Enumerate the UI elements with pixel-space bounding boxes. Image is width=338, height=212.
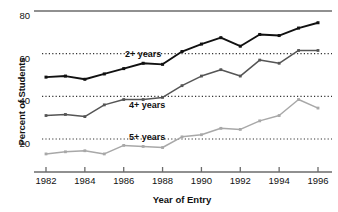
data-point-marker (278, 62, 281, 65)
data-point-marker (83, 115, 86, 118)
plot-area: 80604020 1982198419861988199019921994199… (0, 0, 338, 212)
x-tick-label-1988: 1988 (152, 175, 173, 186)
series-label-2-years: 2+ years (125, 49, 161, 59)
x-tick-label-1986: 1986 (113, 175, 134, 186)
y-tick-label-40: 40 (19, 95, 30, 106)
series-label-5-years: 5+ years (129, 132, 165, 142)
series-line (46, 50, 318, 116)
data-point-marker (258, 33, 261, 36)
data-point-marker (297, 27, 300, 30)
data-point-marker (297, 98, 300, 101)
line-chart-svg: 80604020 1982198419861988199019921994199… (0, 0, 338, 212)
data-point-marker (83, 78, 86, 81)
data-point-marker (181, 135, 184, 138)
data-point-marker (142, 145, 145, 148)
data-point-marker (181, 50, 184, 53)
x-tick-label-1992: 1992 (230, 175, 251, 186)
y-tick-labels-group: 80604020 (19, 10, 30, 149)
data-point-marker (317, 49, 320, 52)
data-point-marker (103, 103, 106, 106)
data-point-marker (239, 75, 242, 78)
data-point-marker (258, 119, 261, 122)
x-tick-label-1984: 1984 (74, 175, 95, 186)
data-point-marker (161, 146, 164, 149)
data-point-marker (64, 113, 67, 116)
data-point-marker (219, 36, 222, 39)
data-point-marker (64, 75, 67, 78)
data-point-marker (219, 68, 222, 71)
data-point-marker (83, 149, 86, 152)
x-tick-label-1994: 1994 (269, 175, 290, 186)
data-point-marker (200, 75, 203, 78)
data-point-marker (161, 96, 164, 99)
data-point-marker (45, 153, 48, 156)
x-tick-label-1990: 1990 (191, 175, 212, 186)
data-point-marker (258, 59, 261, 62)
chart-container: Percent of Students Year of Entry 806040… (0, 0, 338, 212)
series-4-years (45, 49, 320, 118)
data-point-marker (103, 153, 106, 156)
gridlines-group (42, 54, 332, 139)
data-point-marker (181, 84, 184, 87)
data-point-marker (239, 45, 242, 48)
y-tick-label-20: 20 (19, 138, 30, 149)
data-point-marker (161, 63, 164, 66)
data-point-marker (278, 34, 281, 37)
data-point-marker (45, 76, 48, 79)
data-point-marker (317, 107, 320, 110)
series-label-4-years: 4+ years (129, 100, 165, 110)
series-5-years (45, 98, 320, 155)
data-point-marker (122, 144, 125, 147)
data-point-marker (278, 114, 281, 117)
series-line (46, 100, 318, 154)
data-point-marker (200, 133, 203, 136)
data-point-marker (142, 62, 145, 65)
data-point-marker (239, 128, 242, 131)
x-tick-labels-group: 19821984198619881990199219941996 (35, 175, 328, 186)
y-tick-label-60: 60 (19, 53, 30, 64)
data-point-marker (122, 98, 125, 101)
data-point-marker (317, 21, 320, 24)
x-tick-label-1996: 1996 (307, 175, 328, 186)
series-2-years (45, 21, 320, 81)
data-point-marker (297, 49, 300, 52)
y-tick-label-80: 80 (19, 10, 30, 21)
axis-lines-group (34, 11, 332, 172)
data-point-marker (103, 72, 106, 75)
data-point-marker (122, 67, 125, 70)
data-point-marker (45, 114, 48, 117)
data-point-marker (200, 43, 203, 46)
data-point-marker (219, 127, 222, 130)
x-tick-label-1982: 1982 (35, 175, 56, 186)
series-group (45, 21, 320, 155)
data-point-marker (64, 150, 67, 153)
